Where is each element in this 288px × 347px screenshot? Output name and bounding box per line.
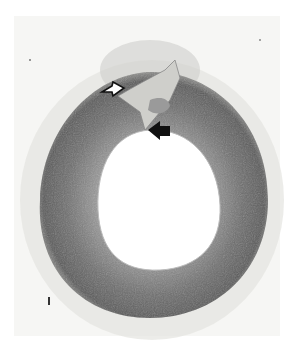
artery-micrograph — [0, 0, 288, 347]
